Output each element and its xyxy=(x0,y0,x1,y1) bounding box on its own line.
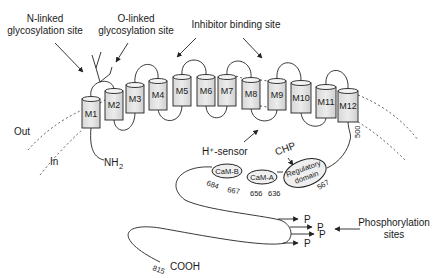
segment-m12: M12 xyxy=(338,89,358,123)
svg-text:glycosylation site: glycosylation site xyxy=(98,25,174,36)
segment-m9: M9 xyxy=(268,79,286,111)
segment-m3: M3 xyxy=(126,83,144,114)
o-linked-arrow xyxy=(116,43,128,62)
inhibitor-arrow-right xyxy=(243,38,262,58)
svg-text:M8: M8 xyxy=(245,89,258,99)
svg-text:M5: M5 xyxy=(176,86,189,96)
svg-text:sites: sites xyxy=(384,229,405,240)
cama-domain: CaM-A xyxy=(247,170,277,184)
n-linked-label: N-linked glycosylation site xyxy=(7,13,83,72)
chp-arrow xyxy=(288,158,293,165)
out-label: Out xyxy=(14,126,30,137)
svg-text:CaM-B: CaM-B xyxy=(215,167,238,176)
svg-text:2: 2 xyxy=(119,162,123,171)
svg-text:M6: M6 xyxy=(200,86,213,96)
inhibitor-label: Inhibitor binding site xyxy=(177,19,281,58)
svg-text:O-linked: O-linked xyxy=(117,13,154,24)
p-site-4: P xyxy=(304,238,311,249)
phosphorylation-sites: P P P P Phosphorylation sites xyxy=(278,214,430,249)
segment-m7: M7 xyxy=(218,75,236,107)
svg-text:CHP: CHP xyxy=(273,140,297,158)
svg-text:H⁺-sensor: H⁺-sensor xyxy=(202,146,248,157)
n-terminus-label: NH 2 xyxy=(104,157,123,171)
svg-text:M10: M10 xyxy=(292,93,310,103)
svg-text:M7: M7 xyxy=(221,86,234,96)
svg-text:656: 656 xyxy=(250,189,263,198)
transmembrane-segments: M1 M2 M3 M4 M5 M6 M7 xyxy=(82,75,358,129)
o-linked-label: O-linked glycosylation site xyxy=(98,13,174,62)
svg-text:684: 684 xyxy=(205,178,220,191)
segment-m1: M1 xyxy=(82,97,100,129)
c-terminus-label: COOH xyxy=(170,261,200,272)
svg-text:636: 636 xyxy=(268,189,281,198)
segment-m6: M6 xyxy=(197,75,215,107)
svg-text:M12: M12 xyxy=(339,101,357,111)
segment-m8: M8 xyxy=(242,78,260,110)
segment-m2: M2 xyxy=(105,89,123,121)
h-sensor-arrow xyxy=(244,130,258,142)
svg-text:M9: M9 xyxy=(271,90,284,100)
segment-m10: M10 xyxy=(291,81,311,114)
svg-text:M11: M11 xyxy=(318,97,335,107)
in-label: In xyxy=(50,156,58,167)
svg-text:M3: M3 xyxy=(129,94,142,104)
p-site-1: P xyxy=(304,214,311,225)
p-site-3: P xyxy=(319,229,326,240)
nhe-topology-diagram: M1 M2 M3 M4 M5 M6 M7 xyxy=(0,0,438,278)
svg-text:667: 667 xyxy=(227,185,241,196)
svg-text:glycosylation site: glycosylation site xyxy=(7,25,83,36)
svg-text:815: 815 xyxy=(151,263,166,276)
segment-m11: M11 xyxy=(316,85,336,119)
h-sensor-label: H⁺-sensor xyxy=(202,130,258,157)
svg-text:M1: M1 xyxy=(85,109,98,119)
svg-text:M4: M4 xyxy=(152,90,165,100)
svg-text:CaM-A: CaM-A xyxy=(250,173,273,182)
camb-domain: CaM-B xyxy=(212,164,242,178)
segment-m5: M5 xyxy=(173,75,191,107)
svg-text:NH: NH xyxy=(104,157,118,168)
svg-text:Phosphorylation: Phosphorylation xyxy=(358,217,430,228)
n-linked-arrow xyxy=(55,43,83,72)
svg-text:Inhibitor binding site: Inhibitor binding site xyxy=(192,19,281,30)
segment-m4: M4 xyxy=(149,79,167,111)
residue-500: 500 xyxy=(353,125,362,138)
svg-text:M2: M2 xyxy=(108,100,121,110)
svg-text:N-linked: N-linked xyxy=(27,13,64,24)
chp-label: CHP xyxy=(273,140,297,165)
inhibitor-arrow-left xyxy=(177,38,196,57)
